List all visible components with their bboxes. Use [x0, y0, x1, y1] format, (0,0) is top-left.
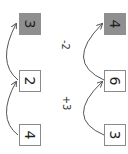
number-box: 4	[19, 124, 41, 146]
box-value: 2	[23, 77, 37, 86]
box-value: 3	[108, 131, 122, 140]
number-box: 6	[104, 70, 126, 92]
number-box: 3	[104, 124, 126, 146]
number-box: 2	[19, 70, 41, 92]
box-value: 4	[23, 131, 37, 140]
box-value: 3	[23, 20, 37, 29]
box-value: 4	[108, 20, 122, 29]
box-value: 6	[108, 77, 122, 86]
arc-label: +3	[61, 96, 71, 111]
number-chain-diagram: 3 2 4 4 6 3 -2 +3	[0, 0, 128, 154]
number-box: 4	[104, 13, 126, 35]
number-box: 3	[19, 13, 41, 35]
arc-label: -2	[60, 40, 70, 50]
